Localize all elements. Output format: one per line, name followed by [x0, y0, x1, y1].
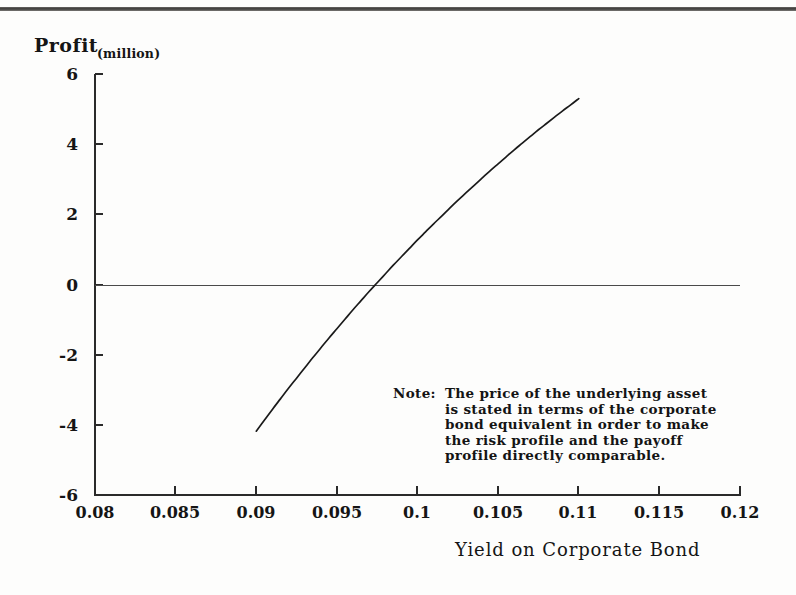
- page-canvas: Profit (million) 6 4 2 0 -2 -4 -6 0.08 0…: [0, 0, 796, 595]
- x-tick-marks: [95, 486, 740, 495]
- chart-figure: Profit (million) 6 4 2 0 -2 -4 -6 0.08 0…: [0, 0, 796, 595]
- x-tick-label-0.08: 0.08: [55, 505, 135, 521]
- chart-note: Note: The price of the underlying asset …: [393, 386, 717, 464]
- x-tick-label-0.09: 0.09: [216, 505, 296, 521]
- chart-note-text: The price of the underlying asset is sta…: [445, 386, 717, 464]
- y-axis-title: Profit: [34, 36, 98, 55]
- y-axis-unit: (million): [97, 48, 160, 61]
- y-tick-label-minus6: -6: [32, 487, 78, 504]
- x-axis-title: Yield on Corporate Bond: [455, 541, 701, 559]
- x-tick-label-0.095: 0.095: [297, 505, 377, 521]
- y-tick-label-minus4: -4: [32, 417, 78, 434]
- chart-note-label: Note:: [393, 386, 436, 402]
- x-tick-label-0.11: 0.11: [538, 505, 618, 521]
- profit-curve: [256, 99, 579, 432]
- y-tick-label-2: 2: [32, 206, 78, 223]
- x-tick-label-0.12: 0.12: [700, 505, 780, 521]
- y-tick-label-minus2: -2: [32, 347, 78, 364]
- y-tick-label-4: 4: [32, 136, 78, 153]
- y-tick-marks: [95, 74, 103, 495]
- x-tick-label-0.1: 0.1: [377, 505, 457, 521]
- x-tick-label-0.105: 0.105: [458, 505, 538, 521]
- x-tick-label-0.085: 0.085: [135, 505, 215, 521]
- y-tick-label-0: 0: [32, 277, 78, 294]
- y-tick-label-6: 6: [32, 66, 78, 83]
- x-tick-label-0.115: 0.115: [619, 505, 699, 521]
